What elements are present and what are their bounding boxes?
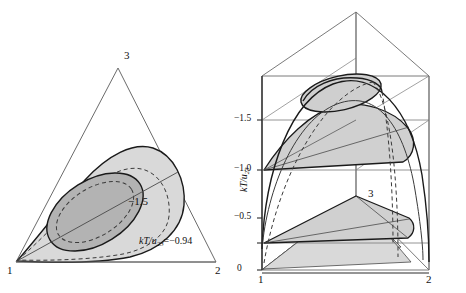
- figure-root: 3 1 2 −1.5 kT/u23=−0.94: [0, 0, 466, 293]
- y-tick-label-minus-1-5: −1.5: [234, 114, 251, 124]
- y-axis: [257, 76, 262, 270]
- temperature-annotation: kT/u23=−0.94: [139, 236, 192, 247]
- top-frame-triangle: [262, 12, 429, 76]
- section-slab-middle: [264, 104, 414, 170]
- contour-label-minus-1-5: −1.5: [128, 196, 148, 207]
- y-axis-title-prefix: kT/u: [238, 174, 249, 192]
- y-tick-label-minus-0-5: −0.5: [234, 212, 251, 222]
- left-vertex-label-3: 3: [124, 50, 130, 61]
- left-panel-canvas: [0, 0, 233, 293]
- left-vertex-label-2: 2: [215, 265, 221, 276]
- left-panel: 3 1 2 −1.5 kT/u23=−0.94: [0, 0, 233, 293]
- right-panel: kT/u23 0 −0.5 −1.0 −1.5 1 2 3: [233, 0, 466, 293]
- right-panel-canvas: [233, 0, 466, 293]
- y-tick-label-0: 0: [237, 264, 242, 274]
- temperature-value: −0.94: [169, 235, 192, 246]
- y-tick-label-minus-1-0: −1.0: [234, 164, 251, 174]
- temperature-subscript: 23: [157, 240, 164, 247]
- temperature-prefix: kT/u: [139, 235, 157, 246]
- right-vertex-label-3: 3: [368, 188, 374, 199]
- right-vertex-label-2: 2: [426, 274, 432, 285]
- right-vertex-label-1: 1: [258, 274, 264, 285]
- left-vertex-label-1: 1: [7, 265, 13, 276]
- section-slab-lowest: [264, 196, 414, 243]
